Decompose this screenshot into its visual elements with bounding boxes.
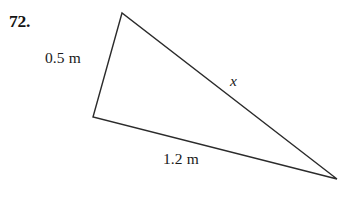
side-length-label-bottom: 1.2 m [163, 151, 199, 167]
triangle-outline [93, 13, 337, 179]
side-length-label-left: 0.5 m [45, 50, 81, 66]
unknown-side-label-x: x [230, 73, 237, 89]
figure-page: 72. 0.5 m 1.2 m x [0, 0, 340, 198]
triangle-figure [0, 0, 340, 198]
problem-number-label: 72. [9, 13, 30, 31]
